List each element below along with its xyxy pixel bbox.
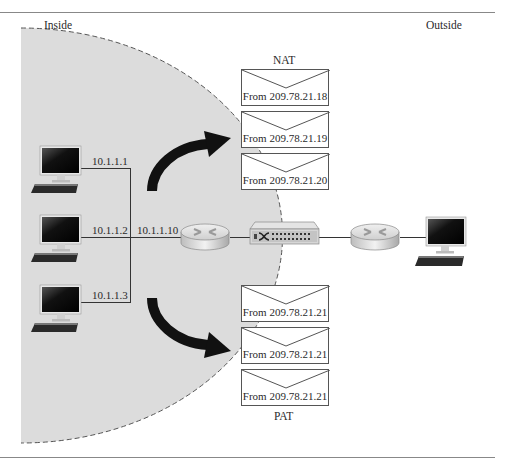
envelope-source: From 209.78.21.21 [242, 348, 328, 360]
router-inside-ip-label: 10.1.1.10 [137, 225, 178, 236]
outside-label: Outside [426, 20, 462, 32]
outside-router-icon [351, 224, 399, 250]
pat-envelope: From 209.78.21.21 [241, 369, 329, 406]
envelope-source: From 209.78.21.18 [242, 90, 328, 102]
inside-router-icon [181, 224, 229, 250]
nat-envelope: From 209.78.21.18 [241, 69, 329, 106]
nat-switch-icon [250, 222, 319, 244]
host-ip-label: 10.1.1.1 [92, 156, 128, 167]
pat-envelope: From 209.78.21.21 [241, 285, 329, 322]
host-ip-label: 10.1.1.3 [92, 290, 128, 301]
inside-label: Inside [44, 20, 72, 32]
nat-label: NAT [273, 55, 295, 67]
envelope-source: From 209.78.21.21 [242, 390, 328, 402]
pat-envelope: From 209.78.21.21 [241, 327, 329, 364]
envelope-source: From 209.78.21.19 [242, 132, 328, 144]
host-ip-label: 10.1.1.2 [92, 225, 128, 236]
nat-envelope: From 209.78.21.20 [241, 153, 329, 190]
outside-computer-icon [415, 217, 466, 266]
envelope-source: From 209.78.21.20 [242, 174, 328, 186]
nat-envelope: From 209.78.21.19 [241, 111, 329, 148]
pat-label: PAT [274, 411, 293, 423]
envelope-source: From 209.78.21.21 [242, 306, 328, 318]
